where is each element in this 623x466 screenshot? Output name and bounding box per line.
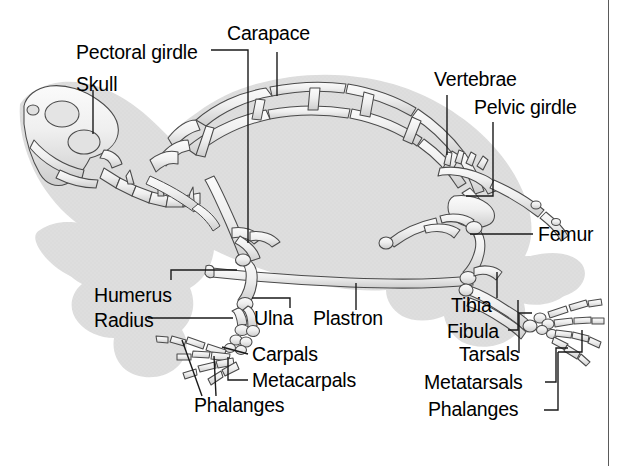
label-radius: Radius bbox=[94, 311, 154, 331]
label-carpals: Carpals bbox=[252, 345, 318, 365]
label-fibula: Fibula bbox=[447, 322, 499, 342]
label-tibia: Tibia bbox=[451, 296, 492, 316]
label-metacarpals: Metacarpals bbox=[252, 371, 356, 391]
label-humerus: Humerus bbox=[94, 286, 172, 306]
figure-right-border bbox=[608, 0, 609, 466]
turtle-skeleton-illustration bbox=[0, 0, 623, 466]
label-skull: Skull bbox=[76, 75, 117, 95]
label-ulna: Ulna bbox=[254, 309, 293, 329]
label-tarsals: Tarsals bbox=[459, 345, 519, 365]
label-pelvic-girdle: Pelvic girdle bbox=[474, 98, 577, 118]
label-femur: Femur bbox=[538, 225, 593, 245]
label-metatarsals: Metatarsals bbox=[424, 373, 523, 393]
leader-metatarsals bbox=[545, 348, 568, 382]
label-phalanges-hind: Phalanges bbox=[428, 400, 518, 420]
anatomy-figure: Carapace Pectoral girdle Skull Vertebrae… bbox=[0, 0, 623, 466]
label-vertebrae: Vertebrae bbox=[434, 70, 517, 90]
label-carapace: Carapace bbox=[227, 24, 310, 44]
label-plastron: Plastron bbox=[313, 309, 383, 329]
leader-phalanges-front-b bbox=[214, 356, 216, 396]
label-phalanges-front: Phalanges bbox=[194, 396, 284, 416]
label-pectoral-girdle: Pectoral girdle bbox=[76, 43, 198, 63]
